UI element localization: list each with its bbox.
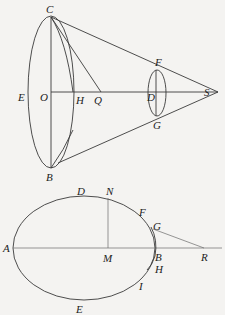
label-S: S xyxy=(204,86,210,98)
label-E: E xyxy=(17,91,25,103)
label-M: M xyxy=(102,252,113,264)
label-C: C xyxy=(46,3,54,15)
label-O: O xyxy=(40,91,48,103)
label-F: F xyxy=(138,206,146,218)
label-N: N xyxy=(105,185,114,197)
upper-figure: C E O H Q B F D G S xyxy=(17,3,218,183)
arc-CH xyxy=(51,17,73,92)
diagram-canvas: C E O H Q B F D G S D N F G A M B R H I … xyxy=(0,0,225,315)
label-B: B xyxy=(155,251,162,263)
label-F: F xyxy=(154,56,162,68)
label-R: R xyxy=(200,251,208,263)
label-Q: Q xyxy=(94,94,102,106)
label-D: D xyxy=(76,185,85,197)
label-A: A xyxy=(2,242,10,254)
lower-figure: D N F G A M B R H I E xyxy=(2,185,222,315)
label-G: G xyxy=(153,119,161,131)
label-E: E xyxy=(75,303,83,315)
label-H: H xyxy=(154,263,164,275)
label-H: H xyxy=(75,94,85,106)
label-G: G xyxy=(153,220,161,232)
label-B: B xyxy=(46,171,53,183)
label-D: D xyxy=(146,91,155,103)
label-I: I xyxy=(138,280,144,292)
